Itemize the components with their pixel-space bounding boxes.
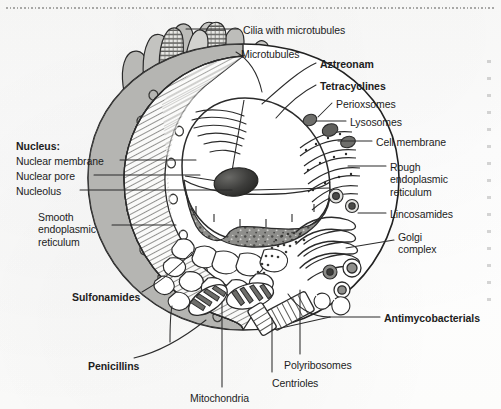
label-mitochondria: Mitochondria [190, 392, 249, 404]
label-golgi-complex: Golgi complex [398, 231, 436, 256]
label-lincosamides: Lincosamides [390, 208, 453, 220]
cell-diagram-illustration [0, 0, 501, 409]
figure-page: Cilia with microtubulesMicrotubulesAztre… [0, 0, 501, 409]
vacuole [314, 293, 330, 309]
label-polyribosomes: Polyribosomes [284, 359, 352, 371]
label-aztreonam: Aztreonam [320, 58, 374, 70]
label-penicillins: Penicillins [88, 360, 139, 372]
label-tetracyclines: Tetracyclines [320, 80, 386, 92]
label-sulfonamides: Sulfonamides [72, 291, 140, 303]
vacuole [332, 297, 350, 315]
label-lysosomes: Lysosomes [350, 116, 402, 128]
label-cilia-with-microtubules: Cilia with microtubules [243, 24, 345, 36]
label-nucleus-heading: Nucleus: [16, 140, 60, 152]
label-rough-endoplasmic-reticulum: Rough endoplasmic reticulum [390, 161, 448, 198]
label-microtubules: Microtubules [241, 48, 299, 60]
label-nucleolus: Nucleolus [16, 185, 61, 197]
label-cell-membrane: Cell membrane [376, 136, 446, 148]
label-perioxsomes: Perioxsomes [336, 98, 396, 110]
cell-body [80, 22, 399, 387]
label-antimycobacterials: Antimycobacterials [384, 312, 480, 324]
label-nuclear-membrane: Nuclear membrane [16, 155, 104, 167]
label-nuclear-pore: Nuclear pore [16, 170, 75, 182]
label-centrioles: Centrioles [272, 377, 318, 389]
label-smooth-endoplasmic-reticulum: Smooth endoplasmic reticulum [38, 211, 96, 248]
